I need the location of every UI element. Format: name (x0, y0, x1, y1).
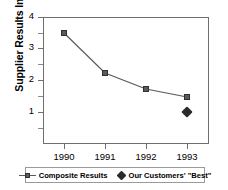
data-point-composite-1991 (102, 70, 108, 76)
legend-item-composite-results[interactable]: Composite Results (19, 171, 108, 180)
legend-diamond-marker-icon (117, 170, 127, 180)
legend-label-composite-results: Composite Results (39, 171, 108, 180)
data-point-composite-1990 (61, 30, 67, 36)
legend-item-customers-best[interactable]: Our Customers' "Best" (118, 171, 211, 180)
series-line-composite-results (0, 0, 228, 190)
legend-label-customers-best: Our Customers' "Best" (128, 171, 211, 180)
chart-legend: Composite Results Our Customers' "Best" (25, 167, 205, 183)
chart-container: Supplier Results Indicator 4 3 2 1 1990 … (0, 0, 228, 190)
legend-line-square-marker-icon (19, 172, 36, 179)
data-point-composite-1993 (184, 94, 190, 100)
data-point-composite-1992 (143, 86, 149, 92)
